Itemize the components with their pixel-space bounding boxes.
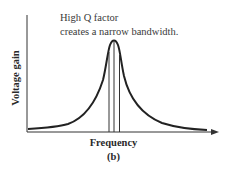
resonance-diagram: High Q factor creates a narrow bandwidth… bbox=[0, 0, 227, 173]
annotation-text: High Q factor creates a narrow bandwidth… bbox=[60, 11, 178, 39]
x-axis-label: Frequency bbox=[90, 137, 138, 148]
y-axis-label: Voltage gain bbox=[10, 50, 21, 105]
annotation-line-1: High Q factor bbox=[60, 11, 178, 25]
resonance-curve bbox=[28, 41, 207, 131]
figure-caption: (b) bbox=[0, 151, 227, 162]
x-axis-arrow-icon bbox=[211, 129, 219, 135]
annotation-line-2: creates a narrow bandwidth. bbox=[60, 25, 178, 39]
x-axis-label-row: Frequency bbox=[0, 137, 227, 148]
